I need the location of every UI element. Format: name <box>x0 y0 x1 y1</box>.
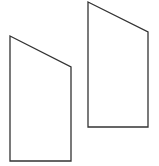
left-trapezoid <box>10 36 71 161</box>
diagram-canvas <box>0 0 159 166</box>
right-trapezoid <box>88 2 148 127</box>
